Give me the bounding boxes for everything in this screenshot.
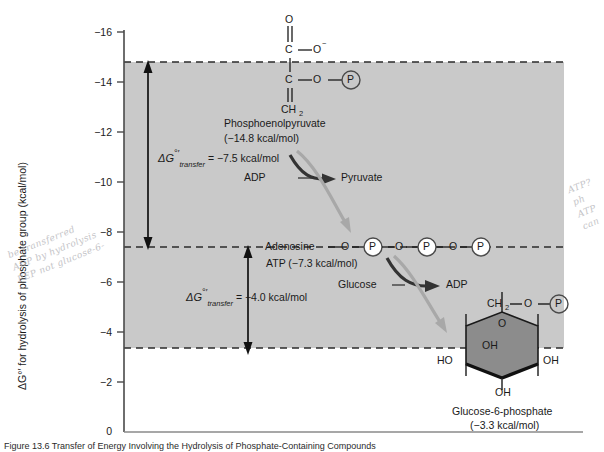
atp-name-energy: ATP (−7.3 kcal/mol) xyxy=(266,258,358,269)
delta-g-symbol-lower: ΔG xyxy=(186,291,202,303)
delta-g-prime-lower: °′ xyxy=(202,286,208,297)
delta-g-prime-upper: °′ xyxy=(174,147,180,158)
transfer-value-upper: = −7.5 kcal/mol xyxy=(205,152,279,164)
figure-caption: Figure 13.6 Transfer of Energy Involving… xyxy=(4,441,376,451)
y-tick-label: −16 xyxy=(86,26,112,38)
atp-oxygen-3: O xyxy=(449,241,457,252)
reaction-label-glucose: Glucose xyxy=(338,279,377,290)
g6p-name: Glucose-6-phosphate xyxy=(452,406,552,417)
g6p-energy: (−3.3 kcal/mol) xyxy=(470,420,539,431)
pep-phosphate-label: P xyxy=(347,74,354,85)
g6p-phosphate-label: P xyxy=(555,298,562,309)
atp-phosphate-1: P xyxy=(369,241,376,252)
g6p-oh-right: OH xyxy=(543,355,559,366)
pep-name: Phosphoenolpyruvate xyxy=(224,118,326,129)
pep-atom-o-minus: O xyxy=(313,44,321,55)
pep-energy: (−14.8 kcal/mol) xyxy=(224,133,299,144)
atp-adenosine-label: Adenosine xyxy=(265,241,315,252)
g6p-ring-oxygen: O xyxy=(498,318,506,329)
delta-g-subscript-lower: transfer xyxy=(208,299,233,308)
atp-oxygen-2: O xyxy=(395,241,403,252)
atp-phosphate-2: P xyxy=(423,241,430,252)
g6p-ch2-subscript: 2 xyxy=(505,304,509,312)
y-tick-label: −12 xyxy=(86,126,112,138)
reaction-label-pyruvate: Pyruvate xyxy=(341,172,382,183)
y-tick-label: −2 xyxy=(86,376,112,388)
y-tick-label: −4 xyxy=(86,326,112,338)
transfer-label-lower: ΔG°′transfer = −4.0 kcal/mol xyxy=(186,286,307,308)
g6p-ch2-label: CH xyxy=(487,298,502,309)
pep-atom-o-mid: O xyxy=(313,74,321,85)
delta-g-symbol-upper: ΔG xyxy=(158,152,174,164)
pep-atom-o-top: O xyxy=(285,14,293,25)
g6p-oh-bottom: OH xyxy=(495,387,511,398)
pep-atom-c-mid: C xyxy=(285,74,293,85)
y-tick-label: −14 xyxy=(86,76,112,88)
g6p-ho-left: HO xyxy=(437,355,453,366)
atp-phosphate-3: P xyxy=(477,241,484,252)
pep-o-minus-charge: − xyxy=(322,40,326,48)
atp-oxygen-1: O xyxy=(341,241,349,252)
transfer-value-lower: = −4.0 kcal/mol xyxy=(233,291,307,303)
reaction-label-adp-lower: ADP xyxy=(446,279,468,290)
g6p-oh-top: OH xyxy=(482,340,498,351)
reaction-label-adp-upper: ADP xyxy=(244,172,266,183)
pep-atom-ch2: CH xyxy=(281,104,296,115)
pep-atom-c-top: C xyxy=(285,44,293,55)
transfer-label-upper: ΔG°′transfer = −7.5 kcal/mol xyxy=(158,147,279,169)
y-tick-label: −6 xyxy=(86,276,112,288)
y-axis-ticks xyxy=(117,32,124,382)
g6p-o-link-label: O xyxy=(524,298,532,309)
y-tick-label: 0 xyxy=(86,425,112,437)
delta-g-subscript-upper: transfer xyxy=(180,160,205,169)
y-tick-label: −10 xyxy=(86,176,112,188)
